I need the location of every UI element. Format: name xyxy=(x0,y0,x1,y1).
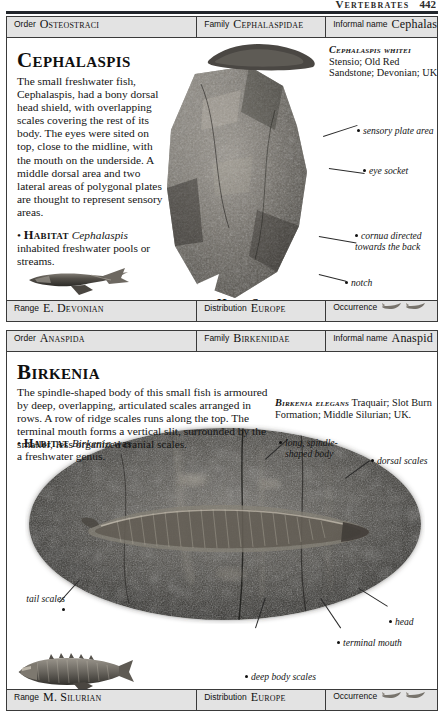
specimen-caption-cephalaspis: Cephalaspis whitei Stensio; Old Red Sand… xyxy=(329,44,437,79)
annotation-dot xyxy=(279,441,282,444)
distribution-cell: Distribution Europe xyxy=(196,301,325,321)
annotation-dot xyxy=(363,169,366,172)
annotation-notch: notch xyxy=(345,278,372,289)
leader-line-sensory xyxy=(323,125,358,137)
fish-icon xyxy=(381,690,403,700)
informal-name-value: Anaspid xyxy=(392,331,433,346)
habitat-line-cephalaspis: • Habitat Cephalaspis inhabited freshwat… xyxy=(17,229,169,268)
specimen-species-name: Cephalaspis whitei xyxy=(329,44,411,55)
occurrence-cell: Occurrence xyxy=(325,301,437,321)
annotation-text: tail scales xyxy=(26,593,65,604)
family-value: Cephalaspidae xyxy=(233,17,303,32)
cephalaspis-fossil-photo xyxy=(157,60,327,310)
birkenia-content: Birkenia The spindle-shaped body of this… xyxy=(7,352,437,689)
occurrence-cell: Occurrence xyxy=(325,690,437,710)
informal-name-value: Cephalaspid xyxy=(392,17,437,32)
order-cell: Order Osteostraci xyxy=(7,17,196,37)
annotation-dorsal-scales: dorsal scales xyxy=(371,456,427,467)
entry-cephalaspis: Order Osteostraci Family Cephalaspidae I… xyxy=(6,16,438,322)
order-value: Osteostraci xyxy=(40,17,99,32)
annotation-text: sensory plate area xyxy=(363,125,434,136)
header-rule xyxy=(6,11,438,14)
family-value: Birkeniidae xyxy=(233,331,289,346)
annotation-dot xyxy=(62,608,65,611)
range-cell: Range E. Devonian xyxy=(7,301,196,321)
annotation-cornua: cornua directed towards the back xyxy=(355,231,437,252)
taxonomy-header-cephalaspis: Order Osteostraci Family Cephalaspidae I… xyxy=(7,17,437,38)
family-label: Family xyxy=(204,333,229,343)
occurrence-icons xyxy=(381,301,427,311)
annotation-deep-body-scales: deep body scales xyxy=(245,672,316,683)
habitat-genus: Birkenia xyxy=(72,437,111,449)
cephalaspis-scale-illustration xyxy=(25,266,135,298)
habitat-genus: Cephalaspis xyxy=(72,229,128,241)
fish-icon xyxy=(381,301,403,311)
annotation-dot xyxy=(245,675,248,678)
informal-name-label: Informal name xyxy=(333,19,387,29)
annotation-dot xyxy=(371,459,374,462)
family-label: Family xyxy=(204,19,229,29)
page-number: 442 xyxy=(420,0,437,10)
habitat-text: inhabited freshwater pools or streams. xyxy=(17,242,150,267)
informal-name-cell: Informal name Anaspid xyxy=(325,331,437,351)
family-cell: Family Birkeniidae xyxy=(196,331,325,351)
annotation-dot xyxy=(337,641,340,644)
annotation-text: notch xyxy=(351,277,372,288)
leader-line-eye-socket xyxy=(329,168,365,174)
annotation-terminal-mouth: terminal mouth xyxy=(337,638,402,649)
habitat-label: Habitat xyxy=(24,436,69,450)
annotation-dot xyxy=(389,620,392,623)
annotation-text: deep body scales xyxy=(251,671,316,682)
habitat-label: Habitat xyxy=(24,228,69,242)
annotation-tail-scales: tail scales xyxy=(21,594,65,615)
annotation-eye-socket: eye socket xyxy=(363,166,408,177)
running-head: Vertebrates 442 xyxy=(335,0,436,11)
annotation-dot xyxy=(357,129,360,132)
range-label: Range xyxy=(14,692,39,702)
annotation-text: dorsal scales xyxy=(377,455,427,466)
informal-name-label: Informal name xyxy=(333,333,387,343)
entry-birkenia: Order Anaspida Family Birkeniidae Inform… xyxy=(6,330,438,711)
annotation-text: terminal mouth xyxy=(343,637,402,648)
annotation-text: long, spindle-shaped body xyxy=(285,437,338,459)
entry-title-cephalaspis: Cephalaspis xyxy=(17,50,177,71)
range-footer-birkenia: Range M. Silurian Distribution Europe Oc… xyxy=(7,689,437,710)
order-label: Order xyxy=(14,333,36,343)
distribution-label: Distribution xyxy=(204,303,247,313)
family-cell: Family Cephalaspidae xyxy=(196,17,325,37)
cephalaspis-content: Cephalaspis The small freshwater fish, C… xyxy=(7,38,437,321)
distribution-label: Distribution xyxy=(204,692,247,702)
occurrence-icons xyxy=(381,690,427,700)
annotation-text: cornua directed towards the back xyxy=(355,230,422,252)
specimen-details: Stensio; Old Red Sandstone; Devonian; UK… xyxy=(329,56,437,79)
taxonomy-header-birkenia: Order Anaspida Family Birkeniidae Inform… xyxy=(7,331,437,352)
annotation-long-spindle-shaped-body: long, spindle-shaped body xyxy=(279,438,357,459)
order-label: Order xyxy=(14,19,36,29)
birkenia-scale-illustration xyxy=(15,652,135,689)
distribution-value: Europe xyxy=(251,690,286,705)
range-footer-cephalaspis: Range E. Devonian Distribution Europe Oc… xyxy=(7,300,437,321)
annotation-text: head xyxy=(395,616,414,627)
entry-body-text: The small freshwater fish, Cephalaspis, … xyxy=(17,75,163,218)
annotation-text: eye socket xyxy=(369,165,408,176)
entry-title-birkenia: Birkenia xyxy=(17,362,217,383)
habitat-bullet: • xyxy=(17,437,21,449)
entry-body-cephalaspis: The small freshwater fish, Cephalaspis, … xyxy=(17,75,169,219)
order-cell: Order Anaspida xyxy=(7,331,196,351)
habitat-bullet: • xyxy=(17,229,21,241)
fish-icon xyxy=(405,690,427,700)
fish-icon xyxy=(405,301,427,311)
range-value: M. Silurian xyxy=(43,690,101,705)
specimen-caption-birkenia: Birkenia elegans Traquair; Slot Burn For… xyxy=(275,397,437,420)
occurrence-label: Occurrence xyxy=(333,302,377,312)
running-head-title: Vertebrates xyxy=(335,0,409,10)
annotation-dot xyxy=(355,234,358,237)
informal-name-cell: Informal name Cephalaspid xyxy=(325,17,437,37)
annotation-sensory-plate-area: sensory plate area xyxy=(357,126,437,137)
range-label: Range xyxy=(14,303,39,313)
distribution-value: Europe xyxy=(251,301,286,316)
order-value: Anaspida xyxy=(40,331,85,346)
cephalaspis-fossil-fragment xyxy=(203,38,323,72)
annotation-head: head xyxy=(389,617,414,628)
distribution-cell: Distribution Europe xyxy=(196,690,325,710)
